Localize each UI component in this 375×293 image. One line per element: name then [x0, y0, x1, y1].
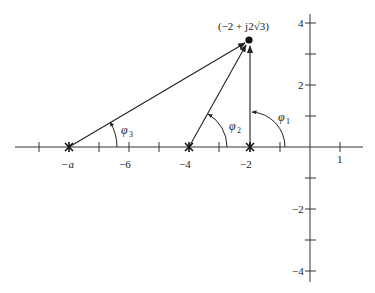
arc-phi2: [208, 114, 227, 147]
svg-text:3: 3: [129, 130, 133, 139]
phi3-label: φ 3: [121, 123, 133, 139]
y-label-neg2: −2: [292, 203, 304, 215]
test-point-label: (−2 + j2√3): [218, 20, 269, 33]
angle-arcs: [110, 112, 285, 147]
x-label-neg-a: −a: [61, 158, 74, 170]
arc-phi3: [110, 122, 117, 147]
pole-vectors: [69, 43, 250, 147]
imaginary-axis: [305, 14, 316, 282]
y-label-4: 4: [298, 17, 304, 29]
s-plane-diagram: (−2 + j2√3) −a −6 −4 −2 1 4 2 −2 −4 φ 3 …: [0, 0, 375, 293]
phi2-label: φ 2: [229, 119, 241, 135]
svg-text:φ: φ: [121, 123, 128, 137]
x-label-neg2: −2: [240, 158, 252, 170]
x-label-1: 1: [337, 153, 343, 165]
x-label-neg6: −6: [119, 158, 131, 170]
svg-text:φ: φ: [229, 119, 236, 133]
test-point: [245, 36, 252, 43]
x-label-neg4: −4: [179, 158, 191, 170]
y-label-neg4: −4: [292, 265, 304, 277]
svg-text:1: 1: [286, 117, 290, 126]
phi1-label: φ 1: [278, 110, 290, 126]
y-label-2: 2: [298, 79, 304, 91]
svg-text:φ: φ: [278, 110, 285, 124]
svg-text:2: 2: [237, 126, 241, 135]
